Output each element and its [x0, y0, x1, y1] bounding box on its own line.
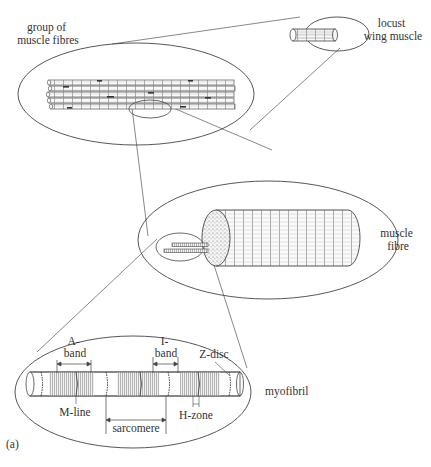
fibre-bundle-icon — [46, 80, 235, 109]
fibre-cylinder-icon — [202, 210, 360, 266]
myofibril-strands-icon — [164, 243, 208, 253]
myofibril-cylinder-icon — [26, 372, 244, 396]
h-zone-label: H-zone — [179, 409, 213, 421]
muscle-fibre-group-panel: group of muscle fibres — [17, 21, 254, 145]
wing-muscle-cylinder-icon — [290, 29, 338, 41]
sarcomere-label: sarcomere — [112, 422, 159, 434]
myofibril-panel: A- band I- band Z-disc M-line H-zone — [15, 335, 308, 448]
locust-label: locust wing muscle — [364, 17, 422, 43]
h-zone-annotation — [193, 396, 199, 407]
group-label: group of muscle fibres — [17, 21, 79, 46]
connector-lines — [37, 17, 340, 368]
muscle-hierarchy-diagram: locust wing muscle — [0, 0, 431, 467]
myofibril-selection-ellipse — [156, 233, 204, 261]
myofibril-label: myofibril — [265, 385, 308, 398]
i-band-label: I- band — [155, 335, 178, 359]
panel-label: (a) — [6, 438, 19, 451]
a-band-annotation — [57, 360, 91, 373]
a-band-label: A- band — [64, 335, 87, 359]
i-band-annotation — [153, 357, 178, 373]
z-disc-label: Z-disc — [199, 348, 228, 360]
m-line-label: M-line — [59, 406, 90, 418]
fibre-label: muscle fibre — [380, 227, 415, 252]
muscle-fibre-panel: muscle fibre — [138, 181, 416, 299]
locust-wing-muscle-panel: locust wing muscle — [290, 17, 422, 51]
